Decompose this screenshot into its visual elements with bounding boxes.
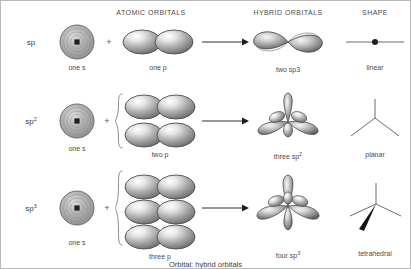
p-orbital-sp2-2	[124, 122, 196, 148]
p-orbital-sp2-1	[124, 94, 196, 120]
s-orbital-label-sp2: one s	[68, 145, 85, 152]
operator-plus-sp: +	[106, 37, 111, 47]
row-label-sp2-sup: 2	[34, 116, 37, 122]
p-orbital-label-sp: one p	[149, 64, 167, 71]
orbital-hybridization-figure: ATOMIC ORBITALS HYBRID ORBITALS SHAPE	[0, 0, 411, 269]
group-brace-sp3	[115, 170, 124, 246]
operator-plus-sp2: +	[104, 116, 109, 126]
hybrid-label-sp2-base: three sp	[274, 153, 299, 160]
shape-label-planar: planar	[365, 151, 384, 158]
p-orbital-sp3-3	[124, 224, 196, 250]
p-orbital-sp3-2	[124, 199, 196, 225]
shape-tetrahedral	[346, 182, 404, 234]
s-orbital-sp2	[58, 102, 96, 140]
hybrid-orbital-sp3	[252, 174, 324, 238]
column-header-atomic-orbitals: ATOMIC ORBITALS	[116, 9, 185, 16]
row-label-sp-base: sp	[27, 38, 35, 47]
row-label-sp2: sp2	[25, 116, 37, 127]
column-header-hybrid-orbitals: HYBRID ORBITALS	[253, 9, 322, 16]
row-label-sp3-sup: 3	[34, 203, 37, 209]
hybrid-orbital-label-sp2: three sp2	[274, 151, 302, 160]
hybrid-label-sp3-sup: 3	[297, 250, 300, 256]
row-label-sp3: sp3	[25, 203, 37, 214]
hybrid-label-sp3-base: four sp	[276, 252, 297, 259]
hybrid-orbital-sp2	[253, 92, 323, 146]
transform-arrow-sp3	[202, 203, 250, 213]
hybrid-orbital-label-sp3: four sp3	[276, 250, 300, 259]
operator-plus-sp3: +	[104, 203, 109, 213]
s-orbital-sp	[58, 23, 96, 61]
p-orbital-sp3-1	[124, 174, 196, 200]
hybrid-label-sp-base: two sp3	[276, 66, 300, 73]
hybrid-label-sp2-sup: 2	[299, 151, 302, 157]
p-orbital-label-sp2: two p	[152, 151, 169, 158]
group-brace-sp2	[115, 93, 124, 149]
figure-caption: Orbital: hybrid orbitals	[169, 260, 242, 269]
column-header-shape: SHAPE	[362, 9, 388, 16]
s-orbital-label-sp3: one s	[68, 239, 85, 246]
hybrid-orbital-sp	[250, 27, 326, 57]
p-orbital-label-sp3: three p	[149, 253, 171, 260]
hybrid-orbital-label-sp: two sp3	[276, 64, 300, 73]
s-orbital-label-sp: one s	[68, 64, 85, 71]
shape-label-linear: linear	[366, 64, 383, 71]
row-label-sp: sp	[27, 37, 35, 48]
shape-label-tetrahedral: tetrahedral	[358, 250, 391, 257]
transform-arrow-sp2	[202, 116, 250, 126]
shape-linear	[344, 36, 406, 48]
transform-arrow-sp	[202, 37, 250, 47]
shape-planar	[347, 98, 403, 140]
s-orbital-sp3	[58, 189, 96, 227]
p-orbital-sp	[122, 29, 194, 55]
